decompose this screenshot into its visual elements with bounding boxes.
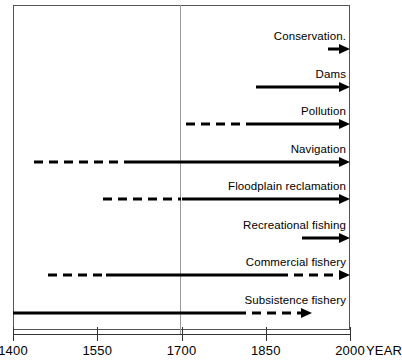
x-tick-1400 [13, 327, 14, 341]
timeline-segment-dashed [237, 312, 303, 315]
x-tick-2000 [350, 327, 351, 341]
plot-frame [13, 5, 350, 330]
timeline-segment-dashed [186, 123, 247, 126]
row-label: Pollution [301, 105, 346, 117]
x-tick-1700 [182, 327, 183, 341]
row-label: Recreational fishing [243, 219, 346, 231]
x-tick-label-1550: 1550 [82, 343, 112, 358]
gridline-1700 [180, 5, 181, 335]
row-label: Navigation [291, 143, 346, 155]
x-tick-1850 [266, 327, 267, 341]
arrow-head-icon [339, 233, 350, 243]
timeline-segment-solid [182, 198, 342, 201]
x-tick-label-1700: 1700 [167, 343, 197, 358]
timeline-segment-solid [302, 237, 341, 240]
arrow-head-icon [339, 157, 350, 167]
timeline-segment-dashed [34, 161, 127, 164]
row-label: Subsistence fishery [244, 294, 346, 306]
timeline-segment-dashed [103, 198, 182, 201]
x-tick-label-1400: 1400 [0, 343, 28, 358]
row-label: Dams [316, 68, 346, 80]
arrow-head-icon [339, 82, 350, 92]
row-label: Floodplain reclamation [228, 180, 346, 192]
row-label: Conservation. [274, 30, 346, 42]
arrow-head-icon [339, 119, 350, 129]
arrow-head-icon [339, 44, 350, 54]
x-axis-unit-label: YEAR [366, 343, 402, 358]
timeline-segment-solid [247, 123, 341, 126]
timeline-segment-solid [256, 86, 341, 89]
timeline-segment-solid [13, 312, 237, 315]
timeline-segment-solid [127, 161, 341, 164]
x-tick-label-1850: 1850 [251, 343, 281, 358]
arrow-head-icon [301, 308, 312, 318]
arrow-head-icon [339, 270, 350, 280]
timeline-segment-dashed [48, 274, 106, 277]
row-label: Commercial fishery [246, 256, 346, 268]
x-tick-label-2000: 2000 [335, 343, 365, 358]
x-tick-1550 [97, 327, 98, 341]
arrow-head-icon [339, 194, 350, 204]
timeline-segment-solid [106, 274, 278, 277]
timeline-segment-dashed [279, 274, 341, 277]
